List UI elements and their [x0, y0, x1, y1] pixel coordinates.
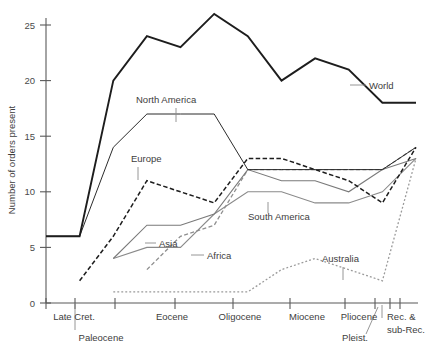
- y-axis-title: Number of orders present: [6, 106, 17, 215]
- y-tick-label: 0: [30, 298, 35, 309]
- epoch-label-recent-line1: Rec. &: [387, 311, 416, 322]
- series-label-africa: Africa: [207, 250, 232, 261]
- epoch-label-late-cret: Late Cret.: [53, 311, 95, 322]
- epoch-label-oligocene: Oligocene: [219, 311, 262, 322]
- chart-container: 0 5 10 15 20 25 Number of orders present: [0, 0, 434, 354]
- line-chart: 0 5 10 15 20 25 Number of orders present: [0, 0, 434, 354]
- epoch-label-eocene: Eocene: [156, 311, 188, 322]
- y-axis-tick-labels: 0 5 10 15 20 25: [24, 20, 35, 309]
- series-label-asia: Asia: [159, 238, 178, 249]
- y-tick-label: 20: [24, 75, 35, 86]
- epoch-label-recent-line2: sub-Rec.: [387, 324, 425, 335]
- y-tick-label: 15: [24, 131, 35, 142]
- epoch-label-pliocene: Pliocene: [341, 311, 377, 322]
- series-line-africa: [147, 147, 416, 269]
- series-label-australia: Australia: [322, 253, 360, 264]
- y-tick-label: 25: [24, 20, 35, 31]
- series-label-south-america: South America: [248, 211, 310, 222]
- epoch-label-miocene: Miocene: [289, 311, 325, 322]
- y-tick-label: 10: [24, 186, 35, 197]
- series-annotations: World North America Europe Asia Africa S…: [131, 80, 394, 280]
- epoch-label-paleocene: Paleocene: [79, 332, 124, 343]
- y-tick-label: 5: [30, 242, 35, 253]
- series-label-north-america: North America: [136, 94, 197, 105]
- series-label-world: World: [369, 80, 394, 91]
- series-label-europe: Europe: [131, 153, 162, 164]
- epoch-label-pleist: Pleist.: [342, 332, 368, 343]
- series-africa: [147, 147, 416, 269]
